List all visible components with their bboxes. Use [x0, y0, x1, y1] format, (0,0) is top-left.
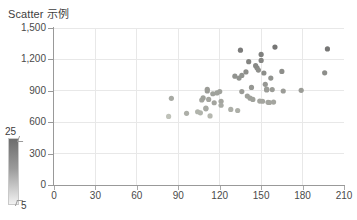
y-axis-label: 300	[0, 148, 46, 159]
data-point	[325, 46, 330, 51]
data-point	[299, 88, 304, 93]
data-point	[279, 69, 284, 74]
y-axis-label: 900	[0, 85, 46, 96]
data-point	[201, 95, 206, 100]
data-point	[212, 100, 217, 105]
colorbar-max-label: 25	[5, 126, 16, 137]
colorbar-min-label: 5	[21, 200, 27, 211]
data-point	[322, 70, 327, 75]
data-point	[261, 70, 266, 75]
x-axis-label: 0	[51, 190, 57, 201]
data-point	[256, 67, 261, 72]
x-axis-label: 30	[90, 190, 101, 201]
data-point	[238, 48, 243, 53]
x-axis-label: 90	[173, 190, 184, 201]
scatter-chart-figure: Scatter 示例 03006009001,2001,500 03060901…	[0, 0, 357, 220]
y-tick-mark	[48, 154, 54, 155]
page-title: Scatter 示例	[8, 5, 69, 21]
data-point	[268, 75, 273, 80]
x-axis-line	[53, 185, 345, 186]
y-axis-label: 1,500	[0, 22, 46, 33]
data-point	[260, 99, 265, 104]
data-points-layer	[54, 28, 344, 185]
data-point	[205, 88, 210, 93]
data-point	[246, 59, 251, 64]
y-axis-line	[53, 27, 54, 186]
data-point	[218, 103, 223, 108]
data-point	[263, 82, 268, 87]
data-point	[198, 110, 203, 115]
data-point	[249, 85, 254, 90]
x-axis-label: 210	[336, 190, 353, 201]
data-point	[243, 69, 248, 74]
data-point	[271, 100, 276, 105]
data-point	[184, 111, 189, 116]
x-axis-label: 180	[294, 190, 311, 201]
data-point	[259, 52, 264, 57]
x-axis-label: 150	[253, 190, 270, 201]
colorbar-top-pointer-icon	[17, 136, 25, 142]
data-point	[169, 96, 174, 101]
data-point	[239, 73, 244, 78]
plot-area	[54, 28, 344, 185]
x-axis-label: 60	[131, 190, 142, 201]
data-point	[235, 108, 240, 113]
y-axis-label: 1,200	[0, 53, 46, 64]
y-tick-mark	[48, 59, 54, 60]
colorbar-gradient	[8, 138, 19, 205]
data-point	[281, 88, 286, 93]
y-tick-mark	[48, 91, 54, 92]
data-point	[264, 87, 269, 92]
data-point	[166, 114, 171, 119]
data-point	[259, 58, 264, 63]
y-axis-label: 0	[0, 179, 46, 190]
data-point	[239, 89, 244, 94]
data-point	[217, 89, 222, 94]
data-point	[270, 87, 275, 92]
data-point	[206, 97, 211, 102]
y-tick-mark	[48, 122, 54, 123]
data-point	[207, 113, 212, 118]
x-axis-label: 120	[211, 190, 228, 201]
data-point	[203, 105, 208, 110]
data-point	[272, 44, 277, 49]
data-point	[228, 107, 233, 112]
y-tick-mark	[48, 28, 54, 29]
data-point	[250, 97, 255, 102]
